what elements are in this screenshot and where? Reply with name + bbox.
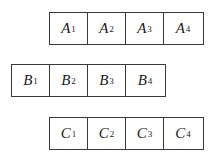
row-a-array: A1 A2 A3 A4: [49, 12, 204, 45]
cell-a3: A3: [126, 13, 164, 44]
cell-a2: A2: [88, 13, 126, 44]
cell-letter: C: [99, 125, 109, 142]
cell-letter: A: [176, 20, 185, 37]
cell-index: 4: [186, 129, 191, 139]
cell-letter: A: [99, 20, 108, 37]
cell-index: 4: [148, 76, 153, 86]
row-b-array: B1 B2 B3 B4: [11, 64, 166, 97]
cell-index: 3: [147, 24, 152, 34]
cell-a1: A1: [50, 13, 88, 44]
row-c-array: C1 C2 C3 C4: [49, 117, 204, 150]
cell-c2: C2: [88, 118, 126, 149]
cell-b4: B4: [126, 65, 164, 96]
cell-letter: C: [61, 125, 71, 142]
cell-index: 2: [110, 129, 115, 139]
cell-letter: B: [61, 72, 70, 89]
cell-index: 1: [72, 129, 77, 139]
cell-index: 4: [186, 24, 191, 34]
cell-letter: B: [138, 72, 147, 89]
cell-a4: A4: [164, 13, 202, 44]
cell-letter: B: [99, 72, 108, 89]
cell-index: 3: [109, 76, 114, 86]
cell-letter: A: [137, 20, 146, 37]
cell-index: 1: [33, 76, 38, 86]
cell-b3: B3: [88, 65, 126, 96]
cell-c1: C1: [50, 118, 88, 149]
cell-b2: B2: [50, 65, 88, 96]
cell-index: 3: [148, 129, 153, 139]
cell-letter: C: [137, 125, 147, 142]
cell-c4: C4: [164, 118, 202, 149]
cell-letter: A: [61, 20, 70, 37]
cell-letter: B: [23, 72, 32, 89]
cell-c3: C3: [126, 118, 164, 149]
cell-index: 1: [71, 24, 76, 34]
cell-index: 2: [109, 24, 114, 34]
cell-index: 2: [71, 76, 76, 86]
cell-b1: B1: [12, 65, 50, 96]
cell-letter: C: [175, 125, 185, 142]
